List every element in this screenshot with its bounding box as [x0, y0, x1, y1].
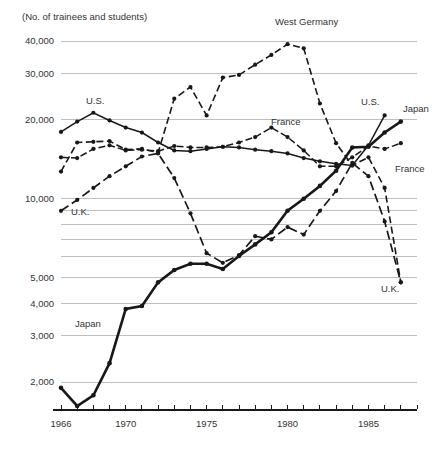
x-axis-tick-label: 1980	[277, 418, 298, 429]
axis-group	[53, 405, 417, 410]
data-point	[318, 164, 322, 168]
data-point	[204, 261, 209, 266]
data-point	[318, 101, 322, 105]
data-point	[318, 209, 322, 213]
data-point	[156, 151, 160, 155]
data-point	[302, 156, 306, 160]
data-point	[221, 145, 225, 149]
data-point	[399, 141, 403, 145]
data-point	[156, 140, 160, 144]
series-label-japan: Japan	[403, 103, 429, 114]
data-point	[188, 85, 192, 89]
series-annotations: West GermanyU.S.U.K.JapanFranceU.S.Japan…	[71, 16, 429, 329]
data-point	[285, 151, 289, 155]
series-label-japan: Japan	[75, 318, 101, 329]
data-point	[269, 230, 274, 235]
data-point	[107, 118, 111, 122]
series-u-s	[59, 111, 387, 168]
data-point	[140, 130, 144, 134]
data-point	[382, 130, 387, 135]
data-point	[399, 119, 404, 124]
data-point	[91, 147, 95, 151]
data-point	[172, 97, 176, 101]
data-point	[124, 148, 128, 152]
data-point	[253, 63, 257, 67]
y-axis-tick-label: 5,000	[30, 272, 54, 283]
data-point	[318, 159, 322, 163]
data-point	[302, 46, 306, 50]
data-point	[75, 140, 79, 144]
data-point	[59, 130, 63, 134]
series-label-u-s: U.S.	[361, 96, 379, 107]
data-point	[383, 113, 387, 117]
data-point	[302, 233, 306, 237]
y-axis-tick-label: 10,000	[25, 193, 54, 204]
data-point	[269, 53, 273, 57]
data-point	[107, 361, 112, 366]
data-point	[59, 386, 64, 391]
data-point	[107, 174, 111, 178]
data-point	[253, 242, 258, 247]
data-point	[334, 164, 338, 168]
data-point	[75, 120, 79, 124]
data-point	[334, 168, 339, 173]
data-point	[188, 261, 193, 266]
y-axis-tick-label: 2,000	[30, 376, 54, 387]
series-u-k	[59, 151, 403, 284]
series-label-west-germany: West Germany	[275, 16, 338, 27]
data-point	[237, 145, 241, 149]
series-label-u-k: U.K.	[71, 206, 89, 217]
x-axis-tick-label: 1970	[115, 418, 136, 429]
data-point	[383, 219, 387, 223]
data-point	[91, 186, 95, 190]
data-point	[140, 304, 145, 309]
data-point	[205, 113, 209, 117]
data-point	[269, 149, 273, 153]
y-axis-labels: 40,00030,00020,00010,0005,0004,0003,0002…	[25, 35, 54, 387]
chart-container: 40,00030,00020,00010,0005,0004,0003,0002…	[0, 0, 438, 450]
data-point	[253, 234, 257, 238]
y-axis-tick-label: 4,000	[30, 298, 54, 309]
data-point	[188, 145, 192, 149]
data-point	[366, 155, 370, 159]
data-point	[140, 148, 144, 152]
data-point	[205, 145, 209, 149]
data-point	[107, 139, 111, 143]
data-point	[91, 140, 95, 144]
data-point	[59, 209, 63, 213]
data-point	[221, 261, 225, 265]
data-point	[366, 144, 370, 148]
data-point	[350, 145, 355, 150]
data-point	[366, 174, 370, 178]
data-point	[205, 251, 209, 255]
data-point	[334, 189, 338, 193]
data-point	[383, 147, 387, 151]
data-point	[253, 148, 257, 152]
data-point	[91, 393, 96, 398]
y-axis-tick-label: 20,000	[25, 114, 54, 125]
data-point	[237, 253, 241, 257]
x-axis-tick-label: 1966	[50, 418, 71, 429]
series-label-france: France	[271, 116, 301, 127]
data-point	[221, 76, 225, 80]
x-axis-tick-label: 1975	[196, 418, 217, 429]
data-point	[237, 73, 241, 77]
data-point	[253, 135, 257, 139]
data-point	[75, 198, 79, 202]
data-point	[172, 176, 176, 180]
series-label-u-k: U.K.	[381, 283, 399, 294]
data-point	[188, 149, 192, 153]
x-axis-labels: 19661970197519801985	[50, 418, 379, 429]
data-point	[334, 141, 338, 145]
data-point	[75, 156, 79, 160]
data-point	[107, 143, 111, 147]
data-point	[172, 144, 176, 148]
series-label-u-s: U.S.	[86, 95, 104, 106]
data-point	[124, 125, 128, 129]
data-point	[350, 161, 354, 165]
data-point	[59, 169, 63, 173]
series-label-france: France	[395, 163, 425, 174]
data-point	[221, 267, 226, 272]
data-point	[302, 148, 306, 152]
series-line	[61, 122, 401, 406]
